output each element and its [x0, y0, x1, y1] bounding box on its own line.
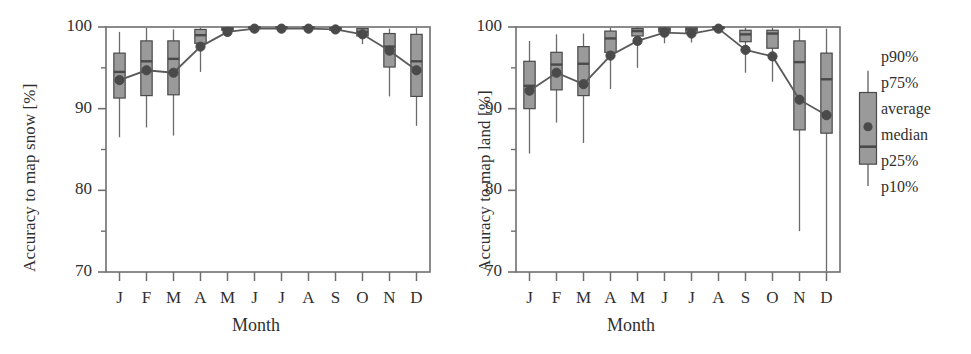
average-marker [741, 45, 750, 54]
xtick-label: J [678, 288, 706, 308]
average-marker [660, 28, 669, 37]
legend: p90% p75% average median p25% p10% [855, 48, 971, 218]
xtick-label: M [160, 288, 188, 308]
box-plot-land-10 [794, 29, 805, 232]
average-marker [525, 86, 534, 95]
xtick-label: A [187, 288, 215, 308]
xtick-label: O [349, 288, 377, 308]
xtick-label: F [543, 288, 571, 308]
xtick-label: O [759, 288, 787, 308]
legend-label-p90: p90% [881, 48, 918, 66]
xtick-label: S [732, 288, 760, 308]
ytick-label: 100 [54, 16, 92, 36]
average-marker [633, 36, 642, 45]
ytick-label: 90 [54, 98, 92, 118]
legend-label-p10: p10% [881, 178, 918, 196]
xtick-label: N [786, 288, 814, 308]
average-marker [714, 24, 723, 33]
xtick-label: A [295, 288, 323, 308]
xtick-label: D [403, 288, 431, 308]
average-marker [115, 75, 124, 84]
xtick-label: A [705, 288, 733, 308]
xtick-label: J [268, 288, 296, 308]
average-marker [795, 95, 804, 104]
xtick-label: J [516, 288, 544, 308]
xtick-label: A [597, 288, 625, 308]
average-marker [579, 80, 588, 89]
average-marker [552, 68, 561, 77]
average-marker [142, 66, 151, 75]
average-marker [412, 66, 421, 75]
xtick-label: M [570, 288, 598, 308]
panel-snow: Accuracy to map snow [%] Month 708090100… [0, 0, 485, 354]
box-plot-land-11 [821, 29, 832, 272]
legend-label-p25: p25% [881, 152, 918, 170]
xtick-label: J [651, 288, 679, 308]
figure-root: Accuracy to map snow [%] Month 708090100… [0, 0, 971, 354]
ytick-label: 70 [464, 261, 502, 281]
xtick-label: M [624, 288, 652, 308]
average-line [120, 29, 417, 80]
average-marker [169, 68, 178, 77]
xtick-label: J [241, 288, 269, 308]
ytick-label: 70 [54, 261, 92, 281]
panel-land: Accuracy to map land [%] Month 708090100… [455, 0, 855, 354]
box-plot-snow-11 [411, 28, 422, 126]
average-marker [768, 52, 777, 61]
box-plot-snow-2 [168, 29, 179, 135]
box-plot-land-4 [632, 27, 643, 68]
box-plot-snow-10 [384, 29, 395, 97]
average-line [530, 29, 827, 116]
xtick-label: M [214, 288, 242, 308]
average-marker [223, 27, 232, 36]
legend-label-p75: p75% [881, 74, 918, 92]
average-marker [250, 24, 259, 33]
average-marker [331, 25, 340, 34]
box-plot-land-0 [524, 41, 535, 154]
average-marker [277, 24, 286, 33]
average-marker [606, 51, 615, 60]
average-marker [822, 111, 831, 120]
average-marker [196, 42, 205, 51]
xtick-label: N [376, 288, 404, 308]
average-marker [687, 29, 696, 38]
legend-label-median: median [881, 126, 928, 144]
legend-sample-box [855, 48, 881, 218]
average-marker [358, 30, 367, 39]
ytick-label: 80 [464, 179, 502, 199]
ytick-label: 80 [54, 179, 92, 199]
legend-label-average: average [881, 100, 931, 118]
xtick-label: F [133, 288, 161, 308]
xtick-label: J [106, 288, 134, 308]
ytick-label: 100 [464, 16, 502, 36]
average-marker [385, 46, 394, 55]
average-marker [304, 24, 313, 33]
xtick-label: S [322, 288, 350, 308]
xtick-label: D [813, 288, 841, 308]
box-plot-land-1 [551, 34, 562, 122]
ytick-label: 90 [464, 98, 502, 118]
box-plot-snow-1 [141, 28, 152, 128]
